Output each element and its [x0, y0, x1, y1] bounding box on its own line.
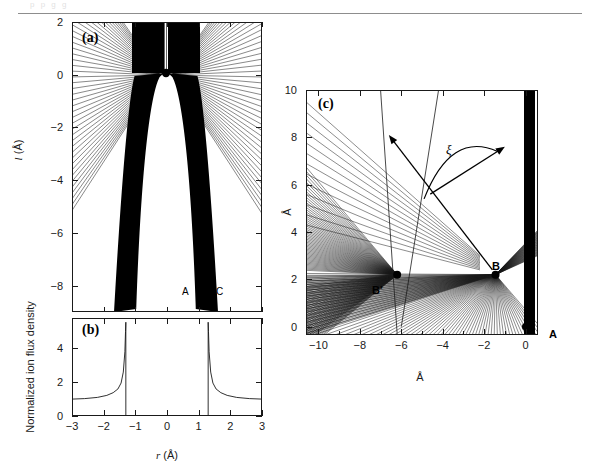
axis-tick — [262, 410, 263, 416]
panel-a-ytick-label: −6 — [50, 227, 63, 238]
axis-tick — [484, 329, 485, 335]
axis-tick — [505, 331, 506, 335]
axis-tick — [381, 331, 382, 335]
panel-b-tag: (b) — [82, 322, 99, 338]
panel-c-ytick-label: 2 — [291, 274, 297, 285]
panel-b-xlabel-symbol: r — [156, 449, 160, 461]
region-label-b: B — [199, 286, 206, 297]
axis-tick — [262, 318, 263, 324]
panel-a-ytick-label: 2 — [57, 17, 63, 28]
axis-tick — [256, 348, 262, 349]
axis-tick — [72, 318, 73, 324]
axis-tick — [135, 318, 136, 324]
panel-a-ytick-label: −8 — [50, 280, 63, 291]
panel-a-frame — [72, 22, 262, 312]
axis-tick — [167, 318, 168, 324]
panel-b-xtick-label: 3 — [259, 421, 265, 432]
axis-tick — [72, 416, 78, 417]
axis-tick — [199, 22, 200, 27]
axis-tick — [306, 90, 312, 91]
panel-a-ytick-label: −4 — [50, 175, 63, 186]
axis-tick — [72, 348, 78, 349]
panel-a-ylabel: l (Å) — [12, 140, 24, 161]
axis-tick — [72, 180, 78, 181]
axis-tick — [72, 382, 78, 383]
panel-c-xlabel: Å — [416, 371, 423, 383]
axis-tick — [104, 22, 105, 27]
panel-b: (b) — [72, 318, 262, 416]
axis-tick — [72, 75, 78, 76]
axis-tick — [526, 90, 527, 96]
axis-tick — [306, 279, 312, 280]
axis-tick — [262, 307, 263, 312]
point-label-b: B — [492, 260, 500, 272]
panel-b-xtick-label: −1 — [129, 421, 142, 432]
axis-tick — [463, 331, 464, 335]
panel-c: (c) ξ B' B — [306, 90, 538, 335]
axis-tick — [72, 286, 78, 287]
axis-tick — [256, 180, 262, 181]
axis-tick — [256, 127, 262, 128]
panel-c-xtick-label: 0 — [523, 340, 529, 351]
axis-tick — [104, 307, 105, 312]
panel-b-xlabel-unit: (Å) — [163, 449, 178, 461]
panel-c-ylabel: Å — [281, 208, 293, 215]
panel-c-xtick-label: −6 — [395, 340, 408, 351]
axis-tick — [72, 22, 73, 27]
axis-tick — [306, 327, 312, 328]
region-label-c: C — [216, 286, 223, 297]
panel-c-frame — [306, 90, 538, 335]
axis-tick — [306, 232, 312, 233]
axis-tick — [72, 307, 73, 312]
panel-a-ylabel-unit: (Å) — [12, 140, 24, 155]
axis-tick — [360, 329, 361, 335]
axis-tick — [422, 331, 423, 335]
axis-tick — [318, 329, 319, 335]
axis-tick — [256, 416, 262, 417]
point-label-a: A — [549, 328, 557, 340]
axis-tick — [230, 22, 231, 27]
axis-tick — [230, 307, 231, 312]
axis-tick — [199, 307, 200, 312]
panel-c-xtick-label: −10 — [309, 340, 328, 351]
axis-tick — [104, 318, 105, 324]
axis-tick — [167, 22, 168, 27]
panel-c-xtick-label: −4 — [436, 340, 449, 351]
panel-a: (a) A B C — [72, 22, 262, 312]
xi-symbol: ξ — [446, 142, 452, 158]
panel-c-ytick-label: 0 — [291, 321, 297, 332]
axis-tick — [135, 410, 136, 416]
axis-tick — [167, 307, 168, 312]
top-rule — [18, 13, 582, 14]
panel-b-xlabel: r (Å) — [156, 449, 178, 461]
panel-a-ylabel-symbol: l — [12, 157, 24, 160]
axis-tick — [256, 75, 262, 76]
axis-tick — [401, 329, 402, 335]
panel-b-frame — [72, 318, 262, 416]
panel-c-ytick-label: 10 — [285, 85, 297, 96]
panel-b-ytick-label: 0 — [57, 411, 63, 422]
panel-a-tag: (a) — [82, 30, 98, 46]
axis-tick — [262, 22, 263, 27]
axis-tick — [443, 90, 444, 96]
panel-c-xtick-label: −8 — [354, 340, 367, 351]
panel-c-ytick-label: 6 — [291, 179, 297, 190]
axis-tick — [306, 137, 312, 138]
axis-tick — [256, 286, 262, 287]
axis-tick — [230, 410, 231, 416]
panel-a-ytick-label: −2 — [50, 122, 63, 133]
axis-tick — [230, 318, 231, 324]
panel-b-xtick-label: 1 — [196, 421, 202, 432]
panel-c-xtick-label: −2 — [478, 340, 491, 351]
axis-tick — [360, 90, 361, 96]
panel-b-xtick-label: 0 — [164, 421, 170, 432]
axis-tick — [443, 329, 444, 335]
panel-b-ylabel-text: Normalized ion flux density — [24, 301, 36, 432]
axis-tick — [199, 318, 200, 324]
panel-b-xtick-label: −2 — [97, 421, 110, 432]
ghost-header-text: p p g g — [30, 0, 570, 9]
axis-tick — [318, 90, 319, 96]
axis-tick — [306, 185, 312, 186]
axis-tick — [256, 233, 262, 234]
panel-b-ytick-label: 4 — [57, 343, 63, 354]
